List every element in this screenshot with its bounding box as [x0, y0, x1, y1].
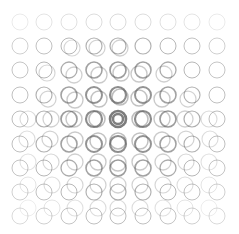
ghost-circle	[202, 131, 218, 147]
grid-circle	[184, 111, 200, 127]
ghost-circle	[180, 91, 196, 107]
grid-circle	[135, 14, 151, 30]
ghost-circle	[40, 91, 56, 107]
ghost-circle	[131, 66, 147, 82]
grid-circle	[36, 111, 52, 127]
grid-circle	[160, 87, 176, 103]
grid-circle	[160, 62, 176, 78]
ghost-circle	[67, 177, 83, 193]
center-inner-ring	[113, 114, 123, 124]
grid-circle	[12, 62, 28, 78]
ghost-circle	[156, 66, 172, 82]
grid-circle	[209, 62, 225, 78]
grid-circle	[160, 184, 176, 200]
ghost-circle	[39, 65, 55, 81]
ghost-circle	[43, 154, 59, 170]
ghost-circle	[43, 111, 59, 127]
grid-circle	[160, 14, 176, 30]
ghost-circle	[66, 67, 82, 83]
grid-circle	[12, 38, 28, 54]
grid-circle	[209, 136, 225, 152]
grid-circle	[184, 184, 200, 200]
grid-circle	[160, 136, 176, 152]
grid-circle	[135, 62, 151, 78]
ghost-circle	[113, 65, 129, 81]
ghost-circle	[91, 67, 107, 83]
grid-circle	[36, 87, 52, 103]
grid-circle	[36, 14, 52, 30]
grid-circle	[184, 14, 200, 30]
grid-circle	[86, 62, 102, 78]
grid-circle	[135, 38, 151, 54]
grid-circle	[12, 87, 28, 103]
grid-circle	[86, 136, 102, 152]
grid-circle	[110, 62, 126, 78]
grid-circle	[61, 136, 77, 152]
grid-circle	[61, 184, 77, 200]
grid-circle	[135, 160, 151, 176]
grid-circle	[86, 160, 102, 176]
grid-circle	[36, 62, 52, 78]
ghost-circle	[177, 111, 193, 127]
grid-circle	[135, 136, 151, 152]
ghost-circle	[19, 131, 35, 147]
ghost-circle	[132, 133, 148, 149]
circle-grid-canvas	[0, 0, 239, 234]
grid-circle	[135, 87, 151, 103]
grid-circle	[110, 184, 126, 200]
ghost-circle	[110, 177, 126, 193]
grid-circle	[36, 160, 52, 176]
grid-circle	[61, 62, 77, 78]
grid-circle	[110, 14, 126, 30]
grid-circle	[12, 136, 28, 152]
grid-circle	[160, 38, 176, 54]
ghost-circle	[177, 177, 193, 193]
grid-circle	[184, 38, 200, 54]
grid-circle	[209, 87, 225, 103]
grid-circle	[184, 87, 200, 103]
grid-circle	[209, 14, 225, 30]
grid-circle	[36, 38, 52, 54]
grid-circle	[61, 14, 77, 30]
grid-circle	[184, 62, 200, 78]
grid-circle	[209, 38, 225, 54]
ghost-circle	[91, 91, 107, 107]
ghost-circle	[155, 177, 171, 193]
grid-circle	[12, 14, 28, 30]
grid-circle	[86, 87, 102, 103]
grid-circle	[86, 14, 102, 30]
